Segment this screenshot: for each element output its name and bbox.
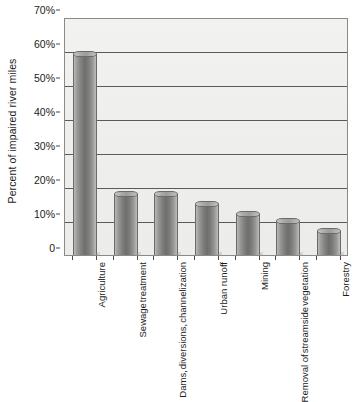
category-label-line: treatment xyxy=(137,262,148,302)
y-axis-tick-mark xyxy=(56,78,60,79)
x-axis-category-label: Urban runoff xyxy=(218,262,242,339)
x-axis-tick-mark xyxy=(316,256,317,260)
x-axis-tick-mark xyxy=(259,256,260,260)
y-axis-tick-mark xyxy=(56,180,60,181)
y-axis-tick-label: 40% xyxy=(34,106,55,118)
y-axis-tick-mark xyxy=(56,146,60,147)
x-axis-category-label: Agriculture xyxy=(96,262,120,339)
bar xyxy=(236,214,260,255)
category-label-line: streamside xyxy=(299,307,310,353)
x-axis-tick-mark xyxy=(153,256,154,260)
x-axis-tick-mark xyxy=(299,256,300,260)
x-axis-tick-mark xyxy=(340,256,341,260)
bar xyxy=(195,204,219,255)
x-axis-category-label: Mining xyxy=(259,262,283,339)
x-axis-tick-mark xyxy=(137,256,138,260)
x-axis-tick-mark xyxy=(96,256,97,260)
y-axis-tick-label: 10% xyxy=(34,208,55,220)
x-axis-tick-mark xyxy=(113,256,114,260)
y-axis-tick-mark xyxy=(56,44,60,45)
y-axis-tick-label: 70% xyxy=(34,4,55,16)
bar-top-cap xyxy=(236,211,260,217)
y-axis-title: Percent of impaired river miles xyxy=(0,0,24,262)
y-axis-title-text: Percent of impaired river miles xyxy=(6,59,18,204)
bar-top-cap xyxy=(195,201,219,207)
category-label-line: Urban runoff xyxy=(218,262,229,315)
category-label-line: Agriculture xyxy=(96,262,107,307)
y-axis-tick-labels: 70%60%50%40%30%20%10%0 xyxy=(24,10,60,262)
bar xyxy=(317,231,341,255)
x-axis-category-label: Sewagetreatment xyxy=(137,262,161,339)
category-label-line: Sewage xyxy=(137,303,148,337)
x-axis-category-label: Dams,diversions,channelization xyxy=(177,262,201,339)
y-axis-tick-label: 30% xyxy=(34,140,55,152)
y-axis-tick-label: 50% xyxy=(34,72,55,84)
x-axis-category-label: Removal ofstreamsidevegetation xyxy=(299,262,323,339)
y-axis-tick-label: 60% xyxy=(34,38,55,50)
bar xyxy=(154,194,178,255)
category-label-line: Mining xyxy=(259,262,270,290)
x-axis-tick-mark xyxy=(194,256,195,260)
category-label-line: channelization xyxy=(177,262,188,323)
y-axis-tick-mark xyxy=(56,10,60,11)
bars-group xyxy=(65,19,347,255)
y-axis-tick-label: 20% xyxy=(34,174,55,186)
x-axis-category-label: Forestry xyxy=(340,262,359,339)
bar-top-cap xyxy=(114,191,138,197)
category-label-line: Forestry xyxy=(340,262,351,297)
bar-top-cap xyxy=(154,191,178,197)
bar xyxy=(276,221,300,255)
x-axis-category-labels: AgricultureSewagetreatmentDams,diversion… xyxy=(64,262,348,339)
bar-top-cap xyxy=(276,218,300,224)
category-label-line: Dams, xyxy=(177,370,188,397)
y-axis-tick-mark xyxy=(56,214,60,215)
bar xyxy=(114,194,138,255)
category-label-line: vegetation xyxy=(299,262,310,306)
category-label-line: Removal of xyxy=(299,354,310,402)
x-axis-tick-mark xyxy=(177,256,178,260)
category-label-line: diversions, xyxy=(177,324,188,369)
y-axis-tick-label: 0 xyxy=(49,242,55,254)
x-axis-tick-mark xyxy=(72,256,73,260)
x-axis-tick-mark xyxy=(218,256,219,260)
x-axis-tick-mark xyxy=(275,256,276,260)
x-axis-tick-mark xyxy=(235,256,236,260)
bar-top-cap xyxy=(73,51,97,57)
bar xyxy=(73,54,97,255)
plot-area xyxy=(64,18,348,256)
y-axis-tick-mark xyxy=(56,112,60,113)
bar-top-cap xyxy=(317,228,341,234)
y-axis-tick-mark xyxy=(56,248,60,249)
